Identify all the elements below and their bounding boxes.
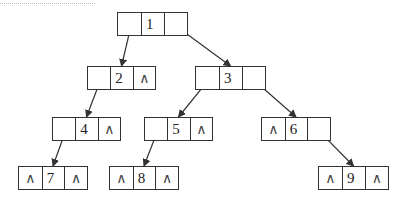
node-data-value: 2 — [110, 67, 132, 89]
left-child-pointer: ∧ — [110, 167, 133, 189]
left-child-pointer — [88, 67, 110, 89]
node-data-value: 1 — [141, 13, 164, 35]
right-child-pointer — [164, 13, 187, 35]
left-child-pointer — [53, 118, 75, 140]
tree-node-4: 4∧ — [52, 117, 121, 141]
right-child-pointer — [242, 67, 265, 89]
binary-tree-diagram: 12∧34∧5∧∧6∧7∧∧8∧∧9∧ — [0, 0, 404, 199]
node-data-value: 4 — [75, 118, 97, 140]
node-data-value: 9 — [342, 167, 365, 189]
left-child-pointer — [145, 118, 167, 140]
left-child-pointer: ∧ — [319, 167, 342, 189]
tree-node-8: ∧8∧ — [109, 166, 179, 190]
tree-node-5: 5∧ — [144, 117, 213, 141]
node-data-value: 8 — [133, 167, 156, 189]
right-child-pointer: ∧ — [98, 118, 120, 140]
right-child-pointer: ∧ — [155, 167, 178, 189]
tree-node-3: 3 — [195, 66, 266, 90]
tree-node-2: 2∧ — [87, 66, 156, 90]
node-data-value: 5 — [167, 118, 189, 140]
node-data-value: 7 — [42, 167, 65, 189]
left-child-pointer — [118, 13, 141, 35]
tree-node-9: ∧9∧ — [318, 166, 389, 190]
tree-node-7: ∧7∧ — [18, 166, 88, 190]
right-child-pointer: ∧ — [365, 167, 388, 189]
left-child-pointer: ∧ — [19, 167, 42, 189]
node-data-value: 6 — [285, 118, 308, 140]
tree-node-6: ∧6 — [261, 117, 331, 141]
right-child-pointer: ∧ — [64, 167, 87, 189]
left-child-pointer — [196, 67, 219, 89]
right-child-pointer: ∧ — [190, 118, 212, 140]
right-child-pointer: ∧ — [133, 67, 155, 89]
left-child-pointer: ∧ — [262, 118, 285, 140]
tree-node-1: 1 — [117, 12, 188, 36]
right-child-pointer — [307, 118, 330, 140]
node-data-value: 3 — [219, 67, 242, 89]
